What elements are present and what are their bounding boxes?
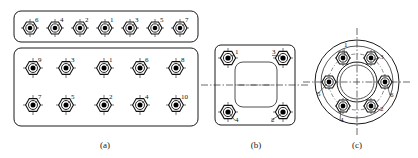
caption-a: (a)	[100, 140, 110, 150]
bolt-marker-7: 7	[171, 16, 189, 37]
bolt-marker-1: 1	[94, 56, 114, 78]
bolt-marker-3: 3	[363, 50, 384, 66]
bolt-marker-1: 1	[96, 16, 114, 37]
bolt-number-label: 6	[145, 56, 149, 64]
bolt-marker-6: 6	[21, 16, 39, 37]
bolt-marker-8: 8	[166, 56, 186, 78]
figure-canvas: 642135793168752410 1342 136245 (a)(b)(c)	[0, 0, 418, 158]
bolt-marker-3: 3	[121, 16, 139, 37]
bolt-number-label: 10	[181, 93, 189, 101]
caption-c: (c)	[352, 140, 362, 150]
bolt-marker-6: 6	[377, 74, 394, 99]
bolt-number-label: 9	[38, 56, 42, 64]
bolt-marker-10: 10	[166, 93, 189, 115]
bolt-number-label: 3	[71, 56, 75, 64]
caption-row: (a)(b)(c)	[100, 140, 362, 150]
bolt-marker-5: 5	[317, 74, 337, 98]
bolt-number-label: 4	[60, 16, 64, 24]
bolt-number-label: 3	[380, 53, 384, 61]
bolt-number-label: 3	[272, 48, 276, 56]
bolt-number-label: 4	[340, 116, 344, 124]
panel-a-lower-outline	[14, 48, 198, 126]
caption-b: (b)	[251, 140, 262, 150]
bolt-marker-4: 4	[218, 102, 239, 124]
bolt-number-label: 1	[344, 41, 348, 49]
panel-c: 136245	[303, 28, 411, 136]
bolt-marker-2: 2	[363, 98, 384, 114]
bolt-marker-3: 3	[56, 56, 76, 78]
bolt-tightening-sequence-figure: 642135793168752410 1342 136245 (a)(b)(c)	[0, 0, 418, 158]
bolt-number-label: 7	[38, 93, 42, 101]
bolt-number-label: 4	[145, 93, 149, 101]
bolt-number-label: 8	[181, 56, 185, 64]
bolt-marker-5: 5	[56, 93, 76, 115]
bolt-number-label: 2	[85, 16, 89, 24]
bolt-number-label: 2	[271, 116, 275, 124]
bolt-number-label: 2	[380, 105, 384, 113]
bolt-marker-9: 9	[23, 56, 43, 78]
bolt-number-label: 1	[235, 48, 239, 56]
bolt-marker-4: 4	[46, 16, 64, 37]
bolt-number-label: 6	[390, 91, 394, 99]
bolt-marker-2: 2	[71, 16, 89, 37]
bolt-number-label: 5	[71, 93, 75, 101]
bolt-number-label: 7	[185, 16, 189, 24]
panel-b-inner-window	[235, 62, 277, 107]
bolt-number-label: 3	[135, 16, 139, 24]
bolt-number-label: 5	[317, 90, 321, 98]
bolt-marker-4: 4	[130, 93, 150, 115]
bolt-marker-5: 5	[146, 16, 164, 37]
bolt-number-label: 2	[109, 93, 113, 101]
bolt-number-label: 4	[235, 116, 239, 124]
bolt-marker-6: 6	[130, 56, 150, 78]
panel-b: 1342	[201, 45, 309, 125]
bolt-number-label: 1	[109, 56, 113, 64]
panel-a: 642135793168752410	[14, 11, 198, 126]
bolt-marker-7: 7	[23, 93, 43, 115]
bolt-number-label: 1	[110, 16, 114, 24]
bolt-marker-1: 1	[218, 48, 239, 68]
bolt-number-label: 6	[35, 16, 39, 24]
bolt-number-label: 5	[160, 16, 164, 24]
bolt-marker-2: 2	[94, 93, 114, 115]
